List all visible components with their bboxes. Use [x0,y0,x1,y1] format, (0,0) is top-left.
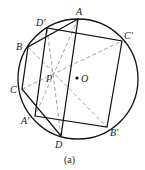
figure-caption: (a) [64,154,75,166]
vertex-label: B′ [110,127,119,138]
dashed-line [28,47,107,127]
vertex-label: A [75,6,83,17]
vertex-label: D′ [35,17,46,28]
dashed-line [22,41,122,89]
center-point-o [75,76,78,79]
dashed-lines-through-p [22,19,122,136]
vertex-label: B [16,41,22,52]
label-p: P [45,73,52,84]
label-o: O [81,73,88,84]
vertex-label: D [54,139,63,150]
vertex-label: A′ [20,115,30,126]
geometry-figure: ABCDA′B′C′D′ O P (a) [0,0,145,170]
vertex-label: C [10,84,17,95]
vertex-label: C′ [124,30,134,41]
